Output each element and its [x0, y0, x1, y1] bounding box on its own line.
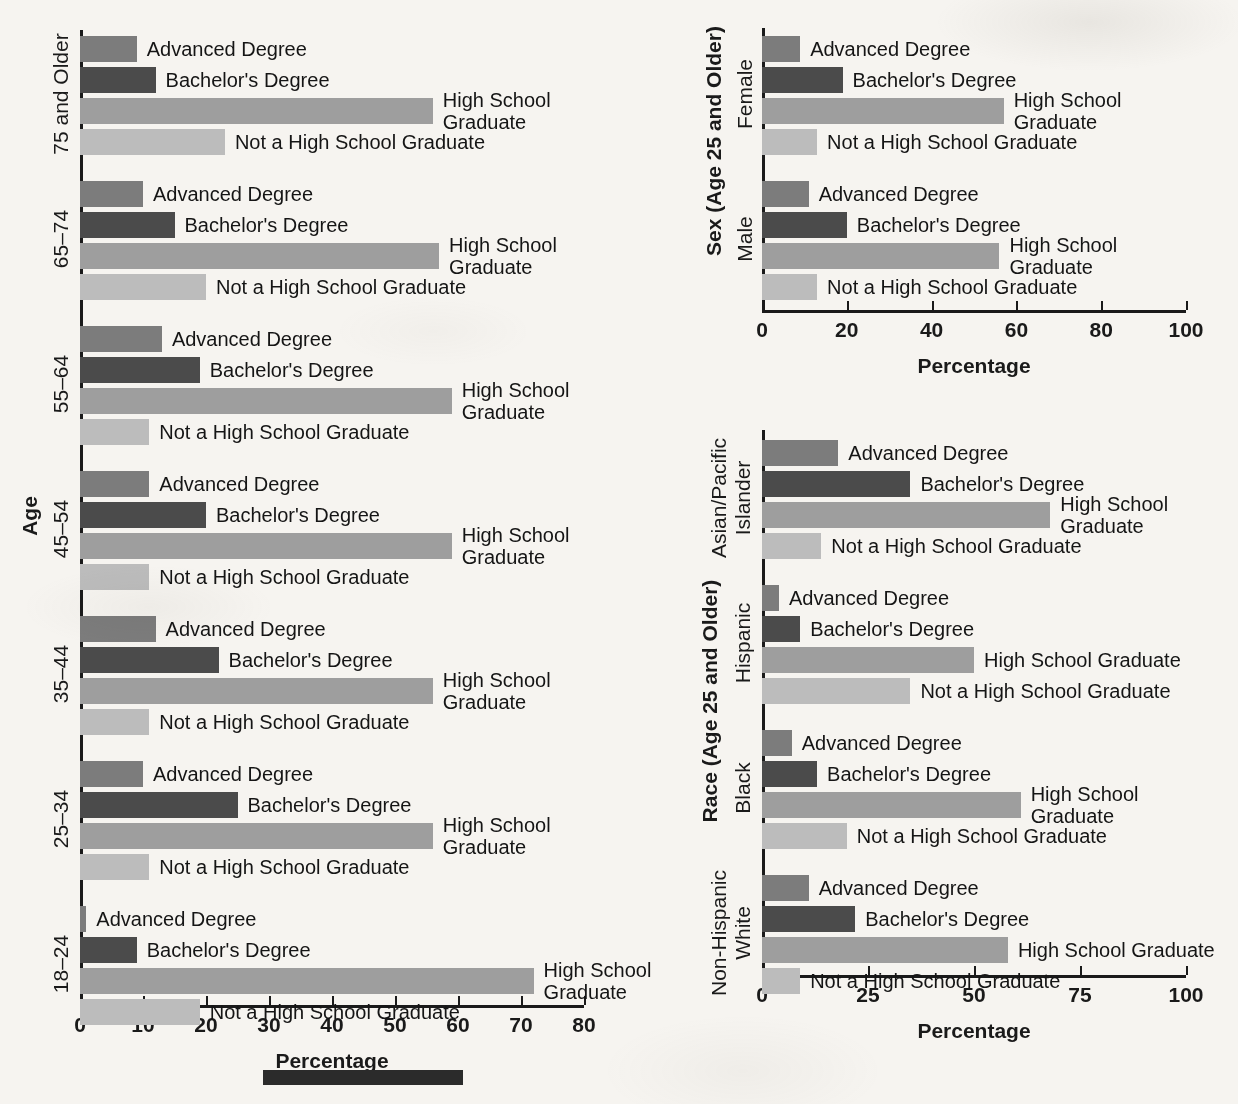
- bar-label-hs_grad: High School Graduate: [984, 649, 1181, 671]
- bar-advanced: [762, 585, 779, 611]
- bar-label-advanced: Advanced Degree: [802, 732, 962, 754]
- bar-not_hs: [762, 823, 847, 849]
- race-x-tick-label: 100: [1168, 983, 1203, 1007]
- bar-label-hs_grad: High School Graduate: [1031, 783, 1139, 827]
- bar-not_hs: [762, 968, 800, 994]
- bar-label-bachelors: Bachelor's Degree: [827, 763, 991, 785]
- race-x-tick-label: 75: [1068, 983, 1091, 1007]
- bar-label-not_hs: Not a High School Graduate: [831, 535, 1081, 557]
- bar-label-bachelors: Bachelor's Degree: [865, 908, 1029, 930]
- bar-bachelors: [762, 761, 817, 787]
- bar-advanced: [762, 730, 792, 756]
- bar-label-advanced: Advanced Degree: [789, 587, 949, 609]
- bar-label-bachelors: Bachelor's Degree: [920, 473, 1084, 495]
- bar-label-hs_grad: High School Graduate: [1018, 939, 1215, 961]
- bar-label-not_hs: Not a High School Graduate: [810, 970, 1060, 992]
- bar-not_hs: [762, 533, 821, 559]
- race-bar-chart: 0255075100PercentageAdvanced DegreeBache…: [0, 0, 1238, 1104]
- race-x-axis-title: Percentage: [917, 1019, 1030, 1043]
- race-x-tick: [1186, 966, 1188, 975]
- bar-advanced: [762, 440, 838, 466]
- bar-hs_grad: [762, 937, 1008, 963]
- bar-not_hs: [762, 678, 910, 704]
- race-x-tick: [1080, 966, 1082, 975]
- bar-advanced: [762, 875, 809, 901]
- bar-label-advanced: Advanced Degree: [819, 877, 979, 899]
- bar-hs_grad: [762, 502, 1050, 528]
- race-plot-area: 0255075100PercentageAdvanced DegreeBache…: [762, 430, 1186, 975]
- bar-hs_grad: [762, 647, 974, 673]
- bar-label-hs_grad: High School Graduate: [1060, 493, 1168, 537]
- category-label: Black: [730, 708, 754, 867]
- bar-label-advanced: Advanced Degree: [848, 442, 1008, 464]
- bar-hs_grad: [762, 792, 1021, 818]
- bar-label-not_hs: Not a High School Graduate: [857, 825, 1107, 847]
- bar-label-not_hs: Not a High School Graduate: [920, 680, 1170, 702]
- category-label: Hispanic: [730, 563, 754, 722]
- bar-bachelors: [762, 616, 800, 642]
- bottom-rule-swatch: [263, 1070, 463, 1085]
- bar-label-bachelors: Bachelor's Degree: [810, 618, 974, 640]
- race-y-axis-title: Race (Age 25 and Older): [698, 501, 722, 901]
- bar-bachelors: [762, 906, 855, 932]
- bar-bachelors: [762, 471, 910, 497]
